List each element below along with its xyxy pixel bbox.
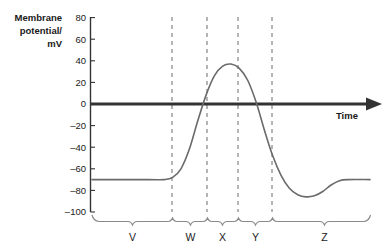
region-brace — [92, 215, 371, 225]
ytick-40: 40 — [75, 55, 86, 66]
y-axis-title-line2: potential/ — [20, 25, 63, 36]
ytick-minus-60: –60 — [70, 163, 86, 174]
region-label-y: Y — [252, 231, 259, 243]
region-label-v: V — [129, 231, 136, 243]
region-label-z: Z — [321, 231, 328, 243]
action-potential-curve — [92, 64, 370, 197]
action-potential-figure: 80 60 40 20 0 –20 –40 –60 –80 –100 Membr… — [0, 0, 390, 252]
time-arrow-icon — [366, 98, 382, 111]
ytick-80: 80 — [75, 12, 86, 23]
y-axis-title-line3: mV — [47, 38, 62, 49]
ytick-minus-40: –40 — [70, 142, 86, 153]
ytick-minus-20: –20 — [70, 120, 86, 131]
ytick-minus-80: –80 — [70, 185, 86, 196]
phase-divider-lines — [172, 17, 272, 212]
region-label-w: W — [186, 231, 196, 243]
ytick-20: 20 — [75, 77, 86, 88]
y-axis-title-line1: Membrane — [14, 12, 62, 23]
membrane-potential-chart: 80 60 40 20 0 –20 –40 –60 –80 –100 Membr… — [0, 0, 390, 252]
region-label-x: X — [219, 231, 226, 243]
ytick-minus-100: –100 — [65, 206, 86, 217]
ytick-60: 60 — [75, 34, 86, 45]
ytick-0: 0 — [81, 98, 86, 109]
x-axis-title: Time — [336, 110, 358, 121]
